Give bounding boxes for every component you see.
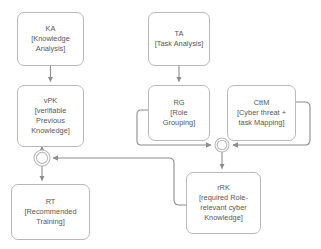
junction-merge-left-inner [36,152,47,163]
node-rg-desc-line2: Grouping] [163,118,195,128]
diagram-canvas: KA [Knowledge Analysis] vPK [verifiable … [0,0,321,249]
node-ta-desc-line1: [Task Analysis] [155,39,203,49]
node-ta-code: TA [175,29,184,39]
node-rrk-desc-line1: [required Role- [199,193,248,203]
node-ka-desc-line2: Analysis] [36,44,66,54]
node-vpk-code: vPK [44,96,58,106]
node-rrk-desc-line3: Knowledge] [204,213,243,223]
node-cttm-desc-line2: task Mapping] [238,118,284,128]
node-cttm-code: CttM [254,98,270,108]
node-vpk-desc-line2: Previous [36,116,65,126]
node-rg[interactable]: RG [Role Grouping] [148,85,210,141]
node-rt-desc-line2: Training] [36,217,64,227]
node-rt-desc-line1: [Recommended [24,207,76,217]
junction-merge-right-inner [217,140,227,150]
node-cttm[interactable]: CttM [Cyber threat + task Mapping] [227,85,296,141]
node-rrk-code: rRK [217,183,230,193]
node-vpk[interactable]: vPK [verifiable Previous Knowledge] [17,85,84,147]
node-ka[interactable]: KA [Knowledge Analysis] [17,12,84,66]
node-rg-desc-line1: [Role [170,108,187,118]
node-ta[interactable]: TA [Task Analysis] [148,12,210,66]
node-rt[interactable]: RT [Recommended Training] [11,184,90,240]
node-rrk[interactable]: rRK [required Role- relevant cyber Knowl… [186,172,261,234]
node-rt-code: RT [46,197,56,207]
node-vpk-desc-line3: Knowledge] [31,126,70,136]
node-vpk-desc-line1: [verifiable [35,106,67,116]
node-ka-code: KA [46,24,56,34]
node-cttm-desc-line1: [Cyber threat + [237,108,286,118]
node-ka-desc-line1: [Knowledge [31,34,70,44]
node-rrk-desc-line2: relevant cyber [200,203,246,213]
node-rg-code: RG [173,98,184,108]
